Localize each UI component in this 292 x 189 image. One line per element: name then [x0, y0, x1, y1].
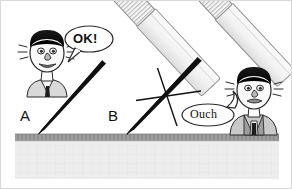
speech-text-ok: OK! [73, 32, 97, 45]
needle-a-label: A [20, 108, 30, 123]
needle-b-label: B [108, 108, 118, 123]
skin-surface [15, 134, 279, 179]
speech-text-ouch: Ouch [190, 108, 217, 120]
scene-canvas [1, 1, 292, 189]
syringe-a [98, 1, 221, 96]
illustration-figure: A B OK! Ouch [0, 0, 292, 189]
